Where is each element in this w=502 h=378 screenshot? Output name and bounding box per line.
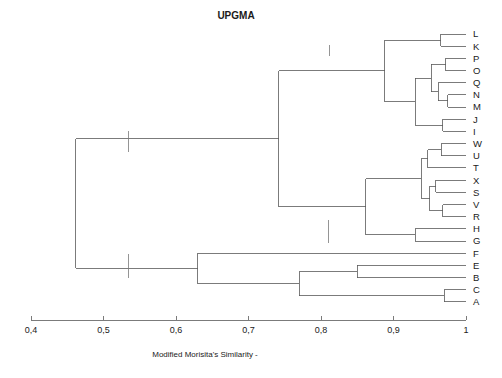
leaf-label-v: V: [473, 199, 480, 210]
leaf-label-i: I: [473, 126, 476, 137]
x-tick-label-2: 0,6: [170, 325, 183, 335]
dendrogram-figure: LKPOQNMJIWUTXSVRHGFEBCA 0,40,50,60,70,80…: [0, 0, 502, 378]
leaf-label-h: H: [473, 223, 480, 234]
x-tick-label-0: 0,4: [25, 325, 38, 335]
leaf-label-j: J: [473, 114, 478, 125]
dendrogram-group-annotations: [128, 45, 330, 278]
leaf-label-e: E: [473, 260, 479, 271]
leaf-label-m: M: [473, 101, 481, 112]
chart-title: UPGMA: [217, 10, 254, 21]
dendrogram-leaf-labels: LKPOQNMJIWUTXSVRHGFEBCA: [473, 28, 482, 307]
leaf-label-b: B: [473, 272, 479, 283]
x-tick-label-4: 0,8: [315, 325, 328, 335]
leaf-label-q: Q: [473, 77, 480, 88]
leaf-label-x: X: [473, 175, 480, 186]
leaf-label-l: L: [473, 28, 478, 39]
leaf-label-s: S: [473, 187, 479, 198]
leaf-label-p: P: [473, 53, 479, 64]
leaf-label-w: W: [473, 138, 482, 149]
x-tick-label-1: 0,5: [97, 325, 110, 335]
leaf-label-k: K: [473, 41, 480, 52]
leaf-label-c: C: [473, 284, 480, 295]
dendrogram-branches: [76, 34, 466, 302]
x-tick-label-5: 0,9: [387, 325, 400, 335]
x-tick-label-6: 1: [463, 325, 468, 335]
leaf-label-o: O: [473, 65, 480, 76]
x-tick-label-3: 0,7: [242, 325, 255, 335]
x-axis: 0,40,50,60,70,80,91: [25, 316, 469, 335]
leaf-label-t: T: [473, 162, 479, 173]
leaf-label-r: R: [473, 211, 480, 222]
leaf-label-u: U: [473, 150, 480, 161]
dendrogram-canvas: LKPOQNMJIWUTXSVRHGFEBCA 0,40,50,60,70,80…: [0, 0, 502, 378]
leaf-label-n: N: [473, 89, 480, 100]
leaf-label-a: A: [473, 296, 480, 307]
x-axis-title: Modified Morisita's Similarity -: [152, 350, 258, 359]
leaf-label-g: G: [473, 235, 480, 246]
leaf-label-f: F: [473, 248, 479, 259]
